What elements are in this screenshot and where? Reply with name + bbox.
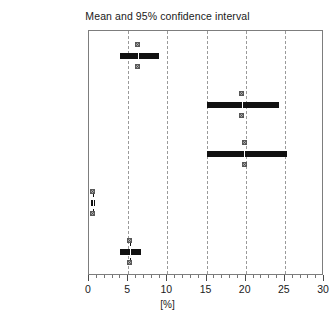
x-tick-16: [213, 275, 214, 278]
x-tick-3: [112, 275, 113, 278]
confidence-interval-bar: [120, 53, 159, 59]
x-tick-label-15: 15: [200, 283, 212, 295]
x-tick-26: [292, 275, 293, 278]
x-tick-21: [253, 275, 254, 278]
plot-area: [88, 30, 323, 275]
x-tick-13: [190, 275, 191, 278]
x-tick-17: [221, 275, 222, 278]
ci-lower-bound-marker: [135, 64, 140, 69]
x-tick-9: [159, 275, 160, 278]
x-tick-8: [151, 275, 152, 278]
x-tick-11: [174, 275, 175, 278]
x-tick-23: [268, 275, 269, 278]
mean-marker: [138, 50, 139, 62]
mean-marker: [130, 246, 131, 258]
x-tick-28: [307, 275, 308, 278]
x-tick-18: [229, 275, 230, 278]
x-tick-29: [315, 275, 316, 278]
x-tick-10: [166, 275, 167, 281]
ci-upper-bound-marker: [90, 189, 95, 194]
x-tick-12: [182, 275, 183, 278]
x-tick-label-0: 0: [85, 283, 91, 295]
x-tick-0: [88, 275, 89, 281]
chart-title: Mean and 95% confidence interval: [0, 10, 335, 22]
x-tick-30: [323, 275, 324, 281]
x-tick-label-20: 20: [239, 283, 251, 295]
x-tick-24: [276, 275, 277, 278]
x-tick-27: [300, 275, 301, 278]
x-tick-19: [237, 275, 238, 278]
x-tick-20: [245, 275, 246, 281]
confidence-interval-chart: Mean and 95% confidence interval [%] Ova…: [0, 0, 335, 322]
ci-upper-bound-marker: [239, 91, 244, 96]
x-axis-title: [%]: [0, 299, 335, 310]
x-tick-label-30: 30: [317, 283, 329, 295]
mean-marker: [93, 197, 94, 209]
ci-lower-bound-marker: [90, 211, 95, 216]
ci-upper-bound-marker: [127, 238, 132, 243]
ci-upper-bound-marker: [135, 42, 140, 47]
mean-marker: [242, 99, 243, 111]
gridline-10: [167, 31, 168, 274]
x-tick-25: [284, 275, 285, 281]
x-tick-4: [119, 275, 120, 278]
x-tick-label-25: 25: [278, 283, 290, 295]
x-tick-1: [96, 275, 97, 278]
x-tick-15: [206, 275, 207, 281]
x-tick-label-10: 10: [160, 283, 172, 295]
confidence-interval-bar: [207, 151, 288, 157]
x-tick-22: [260, 275, 261, 278]
x-tick-5: [127, 275, 128, 281]
x-tick-6: [135, 275, 136, 278]
mean-marker: [244, 148, 245, 160]
x-tick-label-5: 5: [124, 283, 130, 295]
ci-lower-bound-marker: [239, 113, 244, 118]
ci-upper-bound-marker: [242, 140, 247, 145]
x-tick-2: [104, 275, 105, 278]
x-tick-14: [198, 275, 199, 278]
confidence-interval-bar: [120, 249, 141, 255]
x-tick-7: [143, 275, 144, 278]
ci-lower-bound-marker: [242, 162, 247, 167]
ci-lower-bound-marker: [127, 260, 132, 265]
x-axis-tick-marks: [88, 275, 323, 283]
